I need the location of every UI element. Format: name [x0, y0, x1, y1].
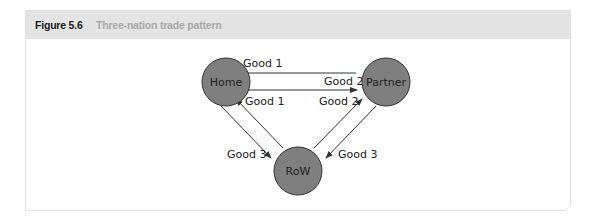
edge-label: Good 2: [324, 75, 363, 88]
edge-label: Good 1: [245, 95, 284, 108]
edge-label: Good 3: [227, 148, 266, 161]
node-row: RoW: [274, 147, 322, 195]
node-label-row: RoW: [286, 165, 311, 178]
edge-label: Good 3: [338, 148, 377, 161]
edge-label: Good 2: [319, 95, 358, 108]
trade-diagram: Good 1 Good 2 Good 1 Good 2 Good 3 Good …: [0, 0, 603, 222]
edge-label: Good 1: [243, 57, 282, 70]
node-label-partner: Partner: [366, 76, 406, 89]
node-home: Home: [202, 58, 250, 106]
node-partner: Partner: [362, 58, 410, 106]
node-label-home: Home: [210, 76, 243, 89]
